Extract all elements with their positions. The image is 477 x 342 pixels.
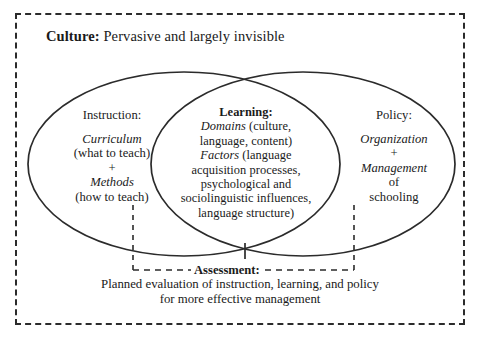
policy-schooling: schooling [369, 190, 418, 204]
learning-domains: Domains [201, 119, 246, 133]
instruction-curriculum: Curriculum [82, 132, 141, 146]
learning-title: Learning: [155, 105, 337, 119]
learning-line5: psychological and [201, 177, 292, 191]
learning-line7: language structure) [198, 206, 294, 220]
instruction-what-to-teach: (what to teach) [74, 146, 150, 160]
policy-management: Management [361, 161, 427, 175]
learning-factors: Factors [200, 148, 239, 162]
policy-title: Policy: [338, 108, 450, 123]
learning-line4: acquisition processes, [191, 163, 300, 177]
assessment-description: Planned evaluation of instruction, learn… [60, 277, 420, 307]
policy-plus: + [390, 146, 397, 160]
assessment-line1: Planned evaluation of instruction, learn… [101, 277, 379, 291]
policy-organization: Organization [360, 132, 427, 146]
assessment-label: Assessment: [191, 263, 263, 278]
learning-line6: sociolinguistic influences, [181, 191, 312, 205]
venn-diagram-figure: Culture: Pervasive and largely invisible… [0, 0, 477, 342]
policy-text-block: Policy: Organization + Management of sch… [338, 108, 450, 205]
learning-domains-rest: (culture, [246, 119, 291, 133]
learning-line2: language, content) [200, 134, 292, 148]
instruction-methods: Methods [90, 175, 134, 189]
policy-of: of [389, 175, 400, 189]
instruction-how-to-teach: (how to teach) [75, 190, 148, 204]
instruction-plus: + [108, 161, 115, 175]
assessment-line2: for more effective management [160, 292, 321, 306]
learning-factors-rest: (language [239, 148, 291, 162]
learning-text-block: Learning: Domains (culture, language, co… [155, 105, 337, 220]
